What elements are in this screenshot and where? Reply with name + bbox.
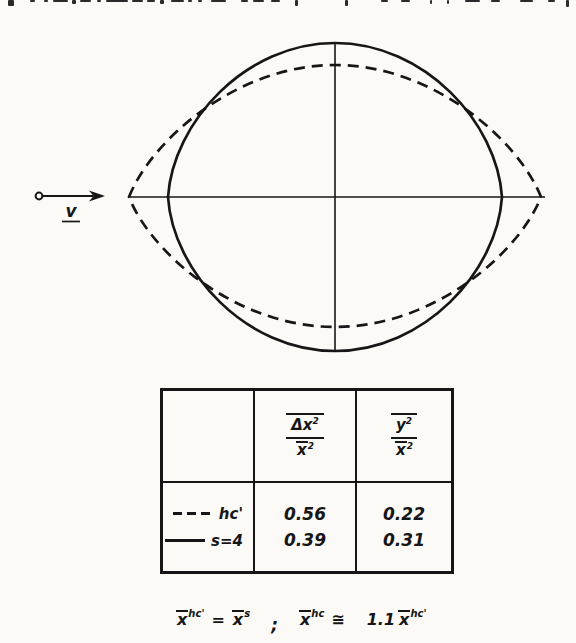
xbar-s: xs <box>232 609 250 628</box>
legend-row-hc: hc' <box>163 505 253 523</box>
solid-line-sample <box>165 539 205 542</box>
header-dx2-over-x2: Δx2 x2 <box>253 391 355 481</box>
approx-equal-sign: ≅ <box>331 610 344 629</box>
row-labels-cell: hc' s=4 <box>163 481 253 571</box>
values-y2-cell: 0.22 0.31 <box>355 481 451 571</box>
velocity-arrow <box>36 191 105 202</box>
row-label: hc' <box>219 505 243 523</box>
equals-sign: = <box>211 610 224 629</box>
drop-contour-diagram: v <box>0 0 576 382</box>
dashed-line-sample <box>173 512 213 515</box>
row-label: s=4 <box>211 532 243 550</box>
value-s4-y2: 0.31 <box>383 532 425 549</box>
coefficient: 1.1 <box>367 610 395 629</box>
header-y2-over-x2: y2 x2 <box>355 391 451 481</box>
semicolon-separator: ; <box>271 615 278 635</box>
value-s4-dx2: 0.39 <box>284 532 326 549</box>
values-dx2-cell: 0.56 0.39 <box>253 481 355 571</box>
fraction-dx2-x2: Δx2 x2 <box>286 413 324 459</box>
table-corner-cell <box>163 391 253 481</box>
legend-row-s4: s=4 <box>163 532 253 550</box>
fraction-y2-x2: y2 x2 <box>391 413 417 459</box>
figure-page: v Δx2 x2 y2 x2 hc' <box>0 0 576 643</box>
relation-formula: xhc' = xs ; xhc ≅ 1.1 xhc' <box>176 604 427 634</box>
xbar-hc-prime: xhc' <box>176 609 204 628</box>
value-hc-y2: 0.22 <box>383 506 425 523</box>
value-hc-dx2: 0.56 <box>284 506 326 523</box>
velocity-label: v <box>65 201 77 221</box>
xbar-hc: xhc <box>299 609 324 628</box>
comparison-table: Δx2 x2 y2 x2 hc' s=4 <box>160 388 454 574</box>
xbar-hc-prime-2: xhc' <box>398 609 426 628</box>
